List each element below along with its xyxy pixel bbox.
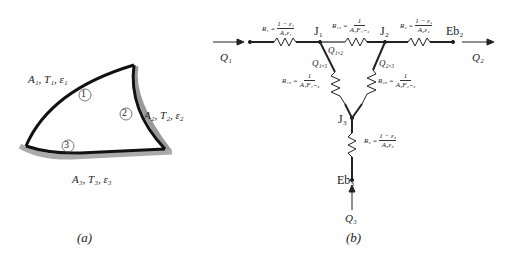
resistor-r13-den: A₁F₁₋₃ (300, 81, 320, 89)
resistor-r3-name: R₃ = (364, 137, 377, 145)
resistor-r23-num: 1 (400, 72, 412, 81)
resistor-r1-den: A₁ε₁ (280, 29, 292, 37)
surface-2-label: A₂, T₂, ε₂ (144, 109, 184, 121)
resistor-r2-den: A₂ε₂ (418, 26, 430, 34)
resistor-r1-name: R₁ = (262, 25, 275, 33)
diagram-canvas (0, 0, 508, 261)
flow-q2-label: Q₂ (472, 51, 484, 63)
resistor-r2-formula: R₂ = 1 − ε₂ A₂ε₂ (400, 17, 432, 34)
surface-1-number: 1 (81, 88, 86, 99)
flow-q1-label: Q₁ (220, 51, 232, 63)
resistor-r12-name: R₁₂ = (332, 22, 348, 30)
resistor-r23-formula: R₂₃ = 1 A₂F₂₋₃ (378, 72, 415, 89)
resistor-r12-den: A₁F₁₋₂ (350, 26, 370, 34)
node-j3-label: J₃ (338, 112, 347, 127)
surface-2-number: 2 (122, 107, 127, 118)
node-j2-label: J₂ (380, 24, 389, 39)
resistor-r13-formula: R₁₃ = 1 A₁F₁₋₃ (282, 72, 319, 89)
node-eb3-label: Eb₃ (337, 173, 355, 188)
surface-1-label: A₁, T₁, ε₁ (28, 73, 68, 85)
node-eb2-label: Eb₂ (446, 24, 464, 39)
flow-q23-label: Q₂,₃ (379, 58, 394, 68)
resistor-r3-num: 1 − ε₃ (379, 132, 396, 141)
flow-q13-label: Q₁,₃ (312, 58, 327, 68)
resistor-r13-num: 1 (304, 72, 316, 81)
resistor-r2-name: R₂ = (400, 22, 413, 30)
surface-3-number: 3 (64, 139, 69, 150)
resistor-r3-den: A₃ε₃ (382, 141, 394, 149)
resistor-r1-num: 1 − ε₁ (277, 20, 294, 29)
flow-q12-label: Q₁,₂ (328, 45, 343, 55)
resistor-r12-num: 1 (354, 17, 366, 26)
node-j1-label: J₁ (314, 24, 323, 39)
surface-3-label: A₃, T₃, ε₃ (72, 173, 112, 185)
resistor-r13-name: R₁₃ = (282, 77, 298, 85)
resistor-r12-formula: R₁₂ = 1 A₁F₁₋₂ (332, 17, 369, 34)
resistor-r3-formula: R₃ = 1 − ε₃ A₃ε₃ (364, 132, 396, 149)
resistor-r2-num: 1 − ε₂ (415, 17, 432, 26)
resistor-r1-formula: R₁ = 1 − ε₁ A₁ε₁ (262, 20, 294, 37)
resistor-r23-name: R₂₃ = (378, 77, 394, 85)
flow-q3-label: Q₃ (345, 212, 357, 224)
caption-a: (a) (77, 230, 92, 246)
resistor-r23-den: A₂F₂₋₃ (396, 81, 416, 89)
caption-b: (b) (346, 230, 361, 246)
